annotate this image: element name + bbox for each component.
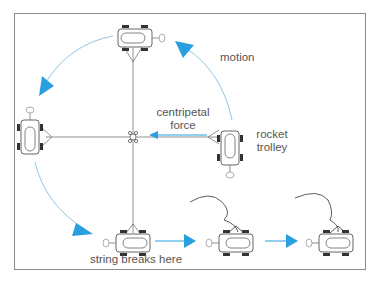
trolley-right	[217, 131, 243, 178]
label-string-breaks: string breaks here	[90, 253, 182, 266]
label-rocket-line1: rocket	[252, 128, 292, 141]
centripetal-force-diagram	[0, 0, 376, 282]
broken-strings	[190, 193, 346, 233]
label-centripetal-force: centripetal force	[148, 106, 218, 132]
trolley-top	[118, 25, 165, 51]
trolley-left	[17, 107, 43, 154]
motion-arrowheads	[39, 41, 194, 236]
label-centripetal-line2: force	[148, 119, 218, 132]
motion-arcs	[35, 36, 232, 230]
label-motion: motion	[220, 51, 255, 64]
trolley-after-break-1	[206, 230, 253, 256]
trolley-after-break-2	[306, 230, 353, 256]
label-rocket-line2: trolley	[252, 141, 292, 154]
label-centripetal-line1: centripetal	[148, 106, 218, 119]
diagram-frame	[15, 14, 366, 270]
label-rocket-trolley: rocket trolley	[252, 128, 292, 154]
centripetal-arrow	[149, 131, 207, 139]
